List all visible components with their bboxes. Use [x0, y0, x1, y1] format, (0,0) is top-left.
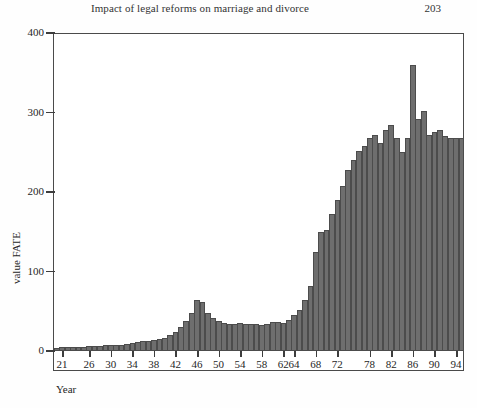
- x-axis-tick-label: 21: [47, 358, 77, 370]
- x-axis-tick: [337, 351, 339, 357]
- x-axis-tick: [240, 351, 242, 357]
- x-axis-tick: [370, 351, 372, 357]
- x-axis-tick: [434, 351, 436, 357]
- x-axis-tick: [283, 351, 285, 357]
- x-axis-tick: [154, 351, 156, 357]
- y-axis-tick-label: 300: [0, 106, 44, 118]
- y-axis-tick: [46, 271, 55, 273]
- y-axis-tick: [46, 32, 55, 34]
- x-axis-tick: [89, 351, 91, 357]
- bar-chart-figure: 0100200300400 value FATE 212630343842465…: [0, 20, 477, 408]
- y-axis-tick: [46, 191, 55, 193]
- bar-series: [54, 33, 464, 351]
- x-axis-tick-label: 94: [441, 358, 471, 370]
- x-axis-tick: [175, 351, 177, 357]
- x-axis-tick: [132, 351, 134, 357]
- x-axis-tick: [316, 351, 318, 357]
- y-axis-tick: [46, 112, 55, 114]
- x-axis-tick: [62, 351, 64, 357]
- running-head-title: Impact of legal reforms on marriage and …: [0, 2, 400, 14]
- page: Impact of legal reforms on marriage and …: [0, 0, 477, 408]
- y-axis-tick: [46, 350, 55, 352]
- x-axis-title: Year: [56, 383, 76, 395]
- x-axis-tick: [197, 351, 199, 357]
- bar: [459, 138, 465, 351]
- x-axis-tick: [413, 351, 415, 357]
- y-axis-tick-label: 100: [0, 265, 44, 277]
- y-axis-title: value FATE: [10, 208, 22, 308]
- x-axis-tick: [391, 351, 393, 357]
- x-axis-tick: [219, 351, 221, 357]
- x-axis-tick-label: 72: [322, 358, 352, 370]
- x-axis-tick: [262, 351, 264, 357]
- x-axis-tick: [294, 351, 296, 357]
- page-number: 203: [425, 2, 442, 14]
- x-axis-tick: [111, 351, 113, 357]
- running-head: Impact of legal reforms on marriage and …: [0, 2, 477, 18]
- x-axis-tick: [456, 351, 458, 357]
- y-axis-tick-label: 400: [0, 26, 44, 38]
- y-axis-tick-label: 200: [0, 185, 44, 197]
- y-axis-tick-label: 0: [0, 344, 44, 356]
